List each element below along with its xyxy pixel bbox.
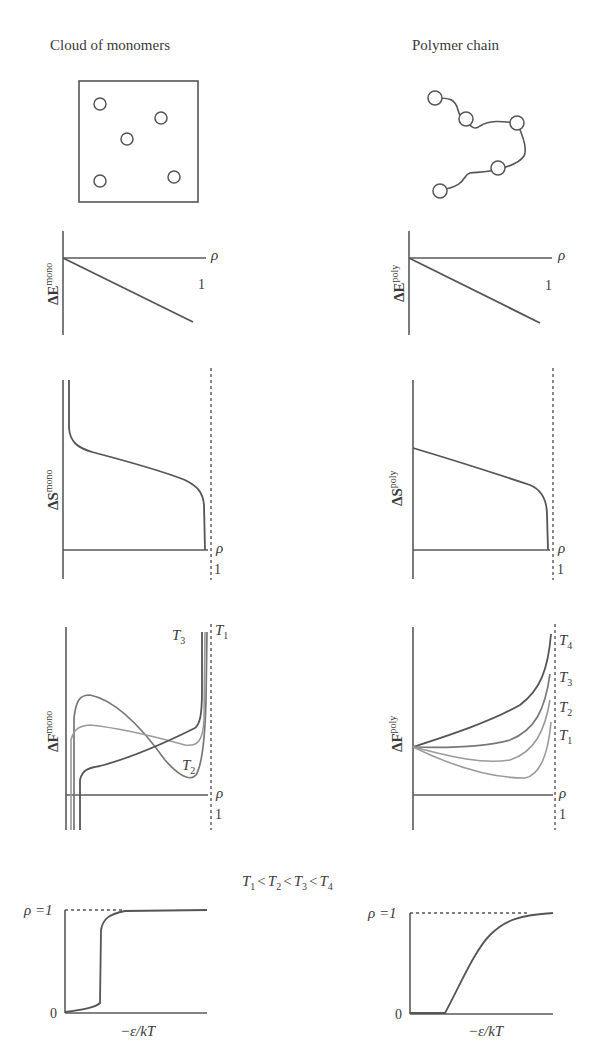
- energy-plot-mono: ρ 1 ΔEmono: [43, 231, 218, 335]
- monomer-icon: [459, 112, 473, 126]
- monomer-icon: [121, 133, 133, 145]
- y-axis-label-energy-mono: ΔEmono: [43, 263, 61, 305]
- monomer-icon: [94, 98, 106, 110]
- curve-label-t2: T2: [559, 699, 572, 718]
- free-energy-plot-mono: T3 T1 T2 ρ 1 ΔFmono: [43, 622, 228, 830]
- rho-axis-label: ρ: [557, 247, 565, 263]
- x-tick-one: 1: [215, 807, 222, 822]
- curve-label-t3: T3: [559, 669, 572, 688]
- energy-plot-poly: ρ 1 ΔEpoly: [389, 231, 565, 335]
- x-axis-label-epsilon-kt: −ε/kT: [120, 1023, 157, 1039]
- curve-label-t4: T4: [559, 632, 572, 651]
- y-axis-label-entropy-poly: ΔSpoly: [387, 470, 405, 506]
- y-tick-rho-one: ρ =1: [23, 902, 53, 918]
- free-energy-plot-poly: T4 T3 T2 T1 ρ 1 ΔFpoly: [387, 624, 572, 830]
- y-axis-label-entropy-mono: ΔSmono: [43, 469, 61, 510]
- polymer-bond: [436, 98, 525, 190]
- curve-label-t3: T3: [172, 627, 185, 646]
- entropy-plot-mono: ρ 1 ΔSmono: [43, 368, 223, 580]
- rho-axis-label: ρ: [557, 540, 565, 556]
- density-plot-mono: ρ =1 0 −ε/kT: [23, 902, 207, 1039]
- y-axis-label-free-energy-poly: ΔFpoly: [387, 716, 405, 752]
- monomer-icon: [491, 161, 505, 175]
- x-axis-label-epsilon-kt: −ε/kT: [468, 1023, 505, 1039]
- rho-axis-label: ρ: [215, 785, 223, 801]
- x-tick-one: 1: [545, 278, 552, 293]
- temperature-ordering: T1<T2<T3<T4: [242, 873, 333, 892]
- left-column-title: Cloud of monomers: [50, 37, 170, 53]
- curve-label-t1: T1: [559, 727, 572, 746]
- rho-axis-label: ρ: [558, 785, 566, 801]
- curve-label-t1: T1: [215, 622, 228, 641]
- monomer-icon: [155, 112, 167, 124]
- y-axis-label-free-energy-mono: ΔFmono: [43, 711, 61, 752]
- x-tick-one: 1: [198, 277, 205, 292]
- density-plot-poly: ρ =1 0 −ε/kT: [367, 905, 553, 1039]
- monomer-cloud-illustration: [79, 81, 198, 202]
- figure: Cloud of monomers Polymer chain ρ 1 ΔEmo…: [0, 0, 604, 1058]
- monomer-icon: [510, 116, 524, 130]
- x-tick-one: 1: [557, 562, 564, 577]
- monomer-icon: [433, 184, 447, 198]
- x-tick-one: 1: [214, 562, 221, 577]
- monomer-icon: [168, 171, 180, 183]
- y-tick-zero: 0: [50, 1006, 57, 1021]
- entropy-plot-poly: ρ 1 ΔSpoly: [387, 368, 565, 580]
- right-column-title: Polymer chain: [412, 37, 500, 53]
- rho-axis-label: ρ: [215, 540, 223, 556]
- x-tick-one: 1: [559, 807, 566, 822]
- monomer-icon: [94, 175, 106, 187]
- polymer-chain-illustration: [428, 91, 525, 198]
- y-tick-rho-one: ρ =1: [367, 905, 397, 921]
- rho-axis-label: ρ: [210, 247, 218, 263]
- y-axis-label-energy-poly: ΔEpoly: [389, 265, 407, 302]
- monomer-icon: [428, 91, 442, 105]
- y-tick-zero: 0: [395, 1007, 402, 1022]
- curve-label-t2: T2: [182, 757, 195, 776]
